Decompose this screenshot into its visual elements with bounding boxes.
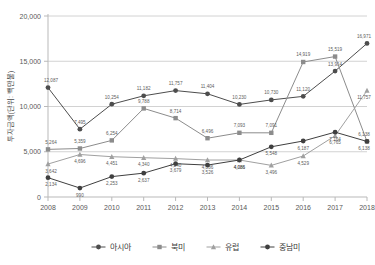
data-label: 7,495 xyxy=(74,120,86,125)
data-point-marker xyxy=(205,136,209,140)
data-point-marker xyxy=(46,175,51,180)
data-label: 3,526 xyxy=(202,170,214,175)
x-tick-label: 2013 xyxy=(200,204,216,211)
x-tick-label: 2012 xyxy=(168,204,184,211)
data-point-marker xyxy=(78,146,82,150)
data-label: 6,138 xyxy=(358,132,370,137)
data-label: 11,757 xyxy=(357,95,371,100)
data-point-marker xyxy=(301,60,305,64)
legend-label: 북미 xyxy=(171,243,185,252)
data-point-marker xyxy=(110,138,114,142)
legend-label: 유럽 xyxy=(225,243,239,252)
data-label: 6,496 xyxy=(202,129,214,134)
circle-marker xyxy=(96,245,101,250)
data-point-marker xyxy=(46,85,51,90)
data-point-marker xyxy=(301,139,306,144)
data-label: 3,496 xyxy=(266,170,278,175)
legend-item-4[interactable]: 중남미 xyxy=(261,243,300,252)
data-point-marker xyxy=(269,144,274,149)
data-label: 4,696 xyxy=(74,159,86,164)
data-point-marker xyxy=(78,186,83,191)
x-tick-label: 2009 xyxy=(72,204,88,211)
x-tick-label: 2018 xyxy=(359,204,375,211)
y-tick-label: 5,000 xyxy=(23,148,41,155)
data-label: 15,519 xyxy=(328,47,342,52)
data-label: 5,548 xyxy=(266,151,278,156)
y-tick-label: 20,000 xyxy=(20,13,42,20)
legend-item-3[interactable]: 유럽 xyxy=(207,243,239,252)
x-tick-label: 2011 xyxy=(136,204,151,211)
data-label: 2,253 xyxy=(106,181,118,186)
data-point-marker xyxy=(333,69,338,74)
x-tick-label: 2014 xyxy=(232,204,248,211)
data-label: 7,091 xyxy=(266,123,278,128)
data-label: 12,087 xyxy=(44,78,58,83)
data-label: 5,264 xyxy=(45,140,57,145)
data-point-marker xyxy=(109,102,114,107)
data-point-marker xyxy=(173,161,178,166)
data-label: 4,529 xyxy=(297,161,309,166)
legend-label: 아시아 xyxy=(110,242,132,252)
data-label: 9,788 xyxy=(138,99,150,104)
data-point-marker xyxy=(333,130,338,135)
data-label: 3,679 xyxy=(170,168,182,173)
data-label: 7,164 xyxy=(329,137,341,142)
data-point-marker xyxy=(205,91,210,96)
y-axis-title: 투자금액(단위: 백만불) xyxy=(6,71,15,143)
data-label: 11,120 xyxy=(296,87,310,92)
data-label: 6,138 xyxy=(358,146,370,151)
data-label: 2,134 xyxy=(45,182,57,187)
x-tick-label: 2015 xyxy=(264,204,280,211)
data-point-marker xyxy=(269,97,274,102)
y-tick-label: 0 xyxy=(37,194,41,201)
data-point-marker xyxy=(365,41,370,46)
circle-marker xyxy=(265,245,270,250)
data-label: 8,714 xyxy=(170,109,182,114)
data-label: 14,919 xyxy=(296,52,310,57)
data-label: 7,093 xyxy=(234,123,246,128)
legend-item-2[interactable]: 북미 xyxy=(153,243,185,252)
chart-container: 05,00010,00015,00020,0002008200920102011… xyxy=(0,0,375,265)
data-point-marker xyxy=(46,147,50,151)
data-point-marker xyxy=(364,88,369,93)
data-point-marker xyxy=(173,116,177,120)
data-label: 3,642 xyxy=(45,169,57,174)
data-point-marker xyxy=(301,153,306,158)
data-point-marker xyxy=(141,93,146,98)
y-tick-label: 10,000 xyxy=(20,103,42,110)
data-label: 4,340 xyxy=(138,162,150,167)
data-point-marker xyxy=(237,102,242,107)
data-label: 6,187 xyxy=(297,146,309,151)
data-point-marker xyxy=(78,127,83,132)
data-label: 11,757 xyxy=(169,81,183,86)
y-tick-label: 15,000 xyxy=(20,58,42,65)
data-label: 4,451 xyxy=(106,161,118,166)
legend-item-1[interactable]: 아시아 xyxy=(92,242,132,252)
data-label: 10,730 xyxy=(264,90,278,95)
data-label: 4,086 xyxy=(234,165,246,170)
data-label: 6,254 xyxy=(106,131,118,136)
square-marker xyxy=(157,245,161,249)
data-point-marker xyxy=(269,131,273,135)
data-point-marker xyxy=(141,171,146,176)
data-label: 13,914 xyxy=(328,62,342,67)
data-point-marker xyxy=(205,163,210,168)
data-point-marker xyxy=(173,88,178,93)
data-point-marker xyxy=(333,54,337,58)
data-label: 11,404 xyxy=(201,84,215,89)
data-label: 16,971 xyxy=(357,34,371,39)
data-point-marker xyxy=(237,158,242,163)
data-label: 5,359 xyxy=(74,139,86,144)
data-label: 10,230 xyxy=(232,95,246,100)
data-point-marker xyxy=(109,174,114,179)
x-tick-label: 2017 xyxy=(327,204,343,211)
data-point-marker xyxy=(237,131,241,135)
line-chart: 05,00010,00015,00020,0002008200920102011… xyxy=(0,0,375,265)
data-point-marker xyxy=(142,106,146,110)
data-point-marker xyxy=(301,94,306,99)
x-tick-label: 2008 xyxy=(40,204,56,211)
data-label: 10,254 xyxy=(105,95,119,100)
data-label: 2,637 xyxy=(138,178,150,183)
data-label: 990 xyxy=(76,193,84,198)
x-tick-label: 2016 xyxy=(295,204,311,211)
